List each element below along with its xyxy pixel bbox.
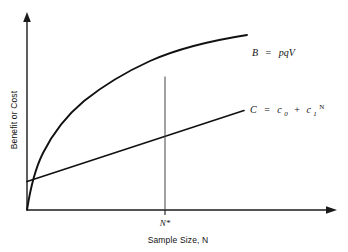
- y-axis-arrowhead: [23, 12, 31, 22]
- y-axis-label-text: Benefit or Cost: [9, 90, 19, 149]
- benefit-cost-chart: N* Sample Size, N Benefit or Cost B = pq…: [0, 0, 348, 252]
- cost-label-c0-subscript: 0: [284, 110, 288, 118]
- cost-label-c0: c: [277, 104, 282, 115]
- cost-label-plus: +: [294, 104, 300, 115]
- x-axis-label-text: Sample Size, N: [148, 235, 209, 245]
- figure-container: N* Sample Size, N Benefit or Cost B = pq…: [0, 0, 348, 252]
- cost-label-equals: =: [264, 104, 270, 115]
- cost-label-c1: c: [306, 104, 311, 115]
- x-axis-arrowhead: [326, 206, 337, 214]
- x-tick-label-text: N*: [159, 218, 171, 228]
- x-tick-label-nstar: N*: [159, 218, 171, 228]
- benefit-label-symbol: B: [252, 47, 258, 58]
- cost-label-c1-subscript: 1: [313, 110, 317, 118]
- benefit-curve: [27, 35, 247, 210]
- cost-label-symbol: C: [250, 104, 257, 115]
- benefit-label-expression: pqV: [278, 47, 297, 58]
- benefit-label-equals: =: [266, 47, 272, 58]
- benefit-curve-label: B = pqV: [252, 47, 297, 58]
- cost-line: [27, 111, 244, 182]
- cost-line-label: C = c 0 + c 1 N: [250, 103, 324, 118]
- x-axis-label: Sample Size, N: [148, 235, 209, 245]
- cost-label-c1-superscript: N: [319, 103, 324, 111]
- y-axis-label: Benefit or Cost: [9, 90, 19, 149]
